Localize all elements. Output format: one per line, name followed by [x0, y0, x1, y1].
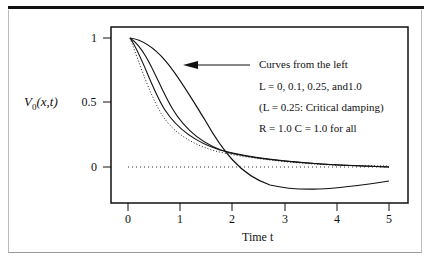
svg-text:5: 5 [386, 212, 392, 226]
svg-text:0.5: 0.5 [82, 95, 97, 109]
svg-text:4: 4 [334, 212, 340, 226]
svg-text:3: 3 [282, 212, 288, 226]
plot-box [111, 27, 408, 203]
y-axis-label: V0(x,t) [24, 94, 58, 112]
x-ticks [128, 203, 389, 211]
plot-svg: 1 0.5 0 0 1 2 3 4 5 [0, 0, 432, 262]
svg-text:1: 1 [177, 212, 183, 226]
legend-line-4: R = 1.0 C = 1.0 for all [259, 122, 357, 134]
svg-text:0: 0 [125, 212, 131, 226]
legend-line-1: Curves from the left [259, 58, 348, 70]
legend-line-3: (L = 0.25: Critical damping) [259, 101, 384, 113]
svg-text:0: 0 [91, 160, 97, 174]
svg-text:2: 2 [229, 212, 235, 226]
x-axis-label: Time t [242, 230, 273, 245]
arrow-annotation [183, 61, 250, 69]
y-ticks [103, 38, 111, 167]
legend-line-2: L = 0, 0.1, 0.25, and1.0 [259, 80, 362, 92]
svg-text:1: 1 [91, 31, 97, 45]
